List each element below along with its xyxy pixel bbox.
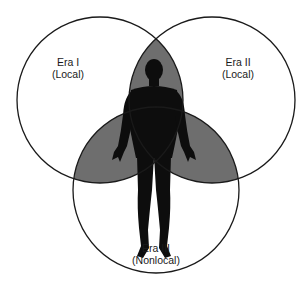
era-1-title: Era I bbox=[57, 56, 79, 68]
era-3-subtitle: (Nonlocal) bbox=[132, 254, 180, 266]
era-2-title: Era II bbox=[225, 56, 250, 68]
venn-diagram: Era I (Local) Era II (Local) Era III (No… bbox=[0, 0, 307, 283]
era-2-subtitle: (Local) bbox=[222, 68, 254, 80]
era-1-subtitle: (Local) bbox=[52, 68, 84, 80]
era-3-title: Era III bbox=[142, 242, 170, 254]
